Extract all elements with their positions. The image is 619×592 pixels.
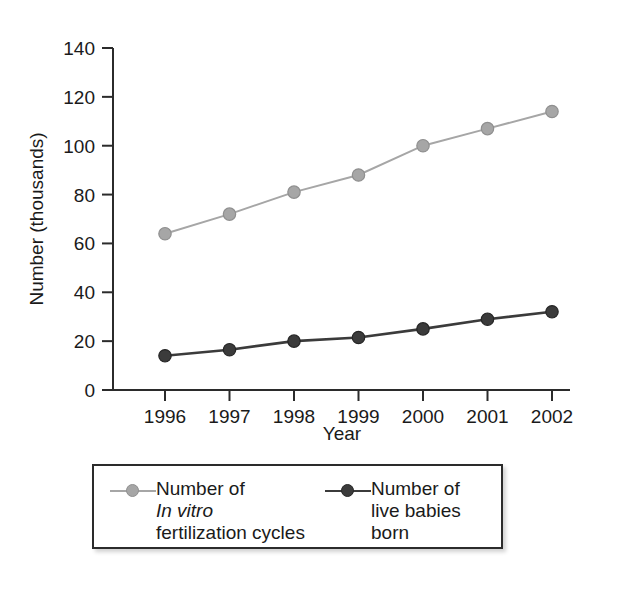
x-axis-title: Year [323,423,362,444]
legend-label-line-1: Number of [371,478,460,499]
legend-item-live-babies: Number oflive babiesborn [325,478,461,544]
y-tick-label: 40 [74,282,95,303]
legend-marker-ivf-cycles [110,480,156,502]
y-tick-label: 80 [74,185,95,206]
data-point [288,186,300,198]
data-point [546,105,558,117]
x-tick-label: 2001 [466,406,508,427]
x-tick-label: 1997 [208,406,250,427]
data-point [481,122,493,134]
data-point [159,350,171,362]
y-tick-label: 0 [84,380,95,401]
legend-item-ivf-cycles: Number ofIn vitrofertilization cycles [110,478,305,544]
legend-marker-live-babies [325,480,371,502]
y-axis-ticks [102,48,113,390]
y-tick-label: 140 [63,38,95,59]
y-tick-label: 20 [74,331,95,352]
data-series-layer [159,105,558,362]
legend-label-ivf-cycles: Number ofIn vitrofertilization cycles [156,478,305,544]
x-tick-label: 2002 [531,406,573,427]
data-point [481,313,493,325]
data-point [546,306,558,318]
legend-label-line-3: born [371,522,409,543]
legend-label-line-3: fertilization cycles [156,522,305,543]
x-tick-label: 1998 [273,406,315,427]
x-axis-ticks [165,390,552,401]
legend-label-line-1: Number of [156,478,245,499]
data-point [159,228,171,240]
legend-label-live-babies: Number oflive babiesborn [371,478,461,544]
data-point [352,331,364,343]
y-tick-label: 60 [74,233,95,254]
y-axis-title: Number (thousands) [26,132,47,305]
x-tick-label: 2000 [402,406,444,427]
data-point [417,323,429,335]
legend-label-line-2-italic: In vitro [156,500,213,521]
y-tick-label: 120 [63,87,95,108]
chart-legend: Number ofIn vitrofertilization cycles Nu… [92,464,503,549]
legend-label-line-2: live babies [371,500,461,521]
data-point [417,140,429,152]
x-tick-label: 1996 [144,406,186,427]
chart-figure: 020406080100120140 199619971998199920002… [0,0,619,592]
data-point [288,335,300,347]
data-point [223,344,235,356]
y-axis-tick-labels: 020406080100120140 [63,38,95,401]
data-point [223,208,235,220]
data-point [352,169,364,181]
y-tick-label: 100 [63,136,95,157]
